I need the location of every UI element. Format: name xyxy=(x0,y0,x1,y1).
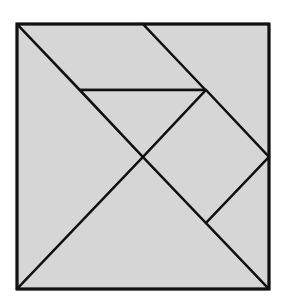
tangram-pieces xyxy=(17,24,269,289)
tangram-diagram xyxy=(0,0,286,304)
